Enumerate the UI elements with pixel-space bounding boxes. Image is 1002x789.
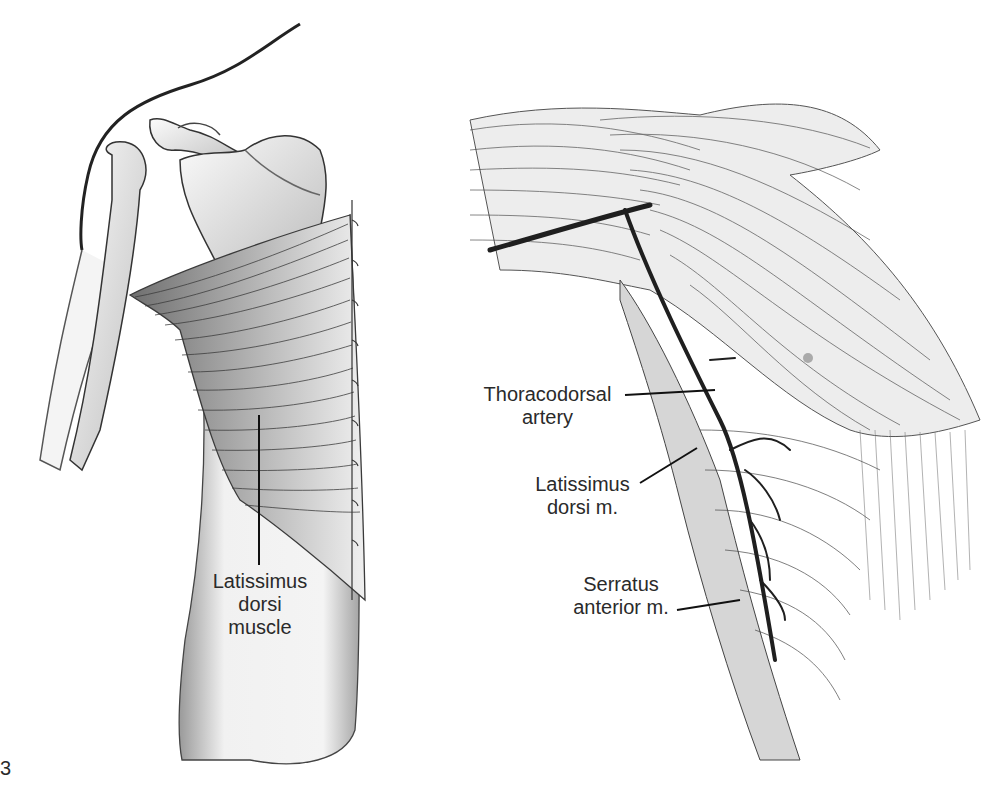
label-line: Latissimus: [525, 473, 640, 496]
label-line: artery: [470, 406, 625, 429]
label-line: dorsi: [205, 593, 315, 616]
panel-marker: 3: [0, 757, 11, 780]
label-latissimus-dorsi-m: Latissimus dorsi m.: [525, 473, 640, 519]
label-thoracodorsal-artery: Thoracodorsal artery: [470, 383, 625, 429]
label-latissimus-dorsi-muscle: Latissimus dorsi muscle: [205, 570, 315, 639]
label-line: dorsi m.: [525, 496, 640, 519]
label-serratus-anterior-m: Serratus anterior m.: [566, 573, 676, 619]
label-line: muscle: [205, 616, 315, 639]
label-line: Thoracodorsal: [470, 383, 625, 406]
left-panel-drawing: [40, 24, 365, 764]
label-line: Latissimus: [205, 570, 315, 593]
label-line: anterior m.: [566, 596, 676, 619]
right-panel-drawing: [470, 104, 980, 760]
anatomy-figure: Latissimus dorsi muscle Thoracodorsal ar…: [0, 0, 1002, 789]
label-line: Serratus: [566, 573, 676, 596]
